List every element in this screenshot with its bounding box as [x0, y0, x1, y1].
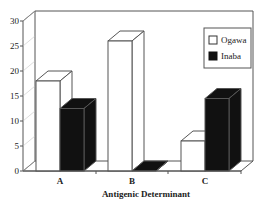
legend-box: [204, 28, 251, 68]
x-category-label: B: [129, 176, 135, 186]
legend-label-ogawa: Ogawa: [221, 35, 247, 45]
legend-label-inaba: Inaba: [221, 51, 241, 61]
y-tick-label: 10: [10, 116, 20, 126]
x-axis: ABC: [23, 171, 241, 186]
y-tick-label: 15: [10, 91, 20, 101]
y-tick-label: 30: [10, 16, 20, 26]
x-category-label: C: [202, 176, 209, 186]
bar-inaba-c: [205, 89, 241, 172]
x-category-label: A: [57, 176, 64, 186]
y-tick-label: 25: [10, 41, 20, 51]
bar-ogawa-b: [108, 31, 144, 171]
bar-inaba-a: [60, 99, 96, 172]
legend-swatch-inaba: [209, 52, 217, 60]
legend-swatch-ogawa: [209, 36, 217, 44]
y-tick-label: 5: [15, 141, 20, 151]
y-tick-label: 0: [15, 166, 20, 176]
legend: Ogawa Inaba: [204, 28, 251, 68]
x-axis-title: Antigenic Determinant: [102, 189, 190, 199]
y-tick-label: 20: [10, 66, 20, 76]
bar-chart: 051015202530 ABC Antigenic Determinant O…: [0, 0, 267, 210]
